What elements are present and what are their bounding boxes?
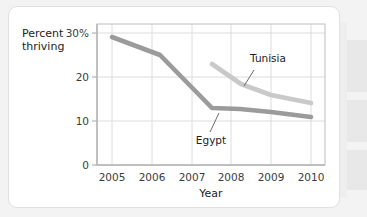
y-tick-label-20: 20 bbox=[76, 71, 89, 83]
x-axis-title: Year bbox=[198, 187, 223, 200]
series-label-tunisia: Tunisia bbox=[249, 52, 286, 64]
y-tick-label-10: 10 bbox=[76, 115, 89, 127]
x-tick-label-2005: 2005 bbox=[99, 171, 126, 183]
x-tick-label-2007: 2007 bbox=[179, 171, 206, 183]
y-tick-label-0: 0 bbox=[82, 159, 89, 171]
series-line-tunisia bbox=[212, 64, 311, 103]
x-tick-label-2006: 2006 bbox=[139, 171, 166, 183]
x-tick-label-2008: 2008 bbox=[218, 171, 245, 183]
screenshot-root: 30% 20 10 0 Percent thriving 2005 2006 2… bbox=[0, 0, 367, 217]
series-label-egypt: Egypt bbox=[196, 134, 226, 146]
x-tick-label-2009: 2009 bbox=[258, 171, 285, 183]
y-axis-ticks bbox=[92, 33, 97, 165]
annotation-egypt: Egypt bbox=[196, 113, 226, 146]
y-tick-label-30: 30% bbox=[66, 27, 89, 39]
y-axis-title-line1: Percent bbox=[22, 27, 64, 40]
y-axis-title-line2: thriving bbox=[22, 40, 64, 53]
line-chart: 30% 20 10 0 Percent thriving 2005 2006 2… bbox=[0, 0, 367, 217]
annotation-tunisia: Tunisia bbox=[244, 52, 286, 86]
x-tick-label-2010: 2010 bbox=[298, 171, 325, 183]
